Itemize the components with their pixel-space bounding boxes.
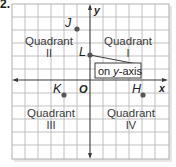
point-h-dot bbox=[140, 92, 145, 97]
quadrant-1-word: Quadrant bbox=[104, 35, 153, 47]
quadrant-2-word: Quadrant bbox=[25, 35, 74, 47]
point-k-dot bbox=[61, 92, 66, 97]
origin-label: O bbox=[79, 83, 88, 95]
quadrant-4-numeral: IV bbox=[126, 119, 137, 131]
callout-prefix: on bbox=[98, 65, 113, 77]
quadrant-2-numeral: II bbox=[46, 47, 52, 59]
point-j-dot bbox=[74, 26, 79, 31]
x-axis-label: x bbox=[158, 82, 166, 94]
quadrant-1-numeral: I bbox=[126, 47, 129, 59]
point-l-dot bbox=[87, 52, 92, 57]
callout-suffix: -axis bbox=[119, 65, 143, 77]
quadrant-3-word: Quadrant bbox=[27, 107, 76, 119]
point-l-label: L bbox=[79, 45, 86, 59]
point-h-label: H bbox=[132, 82, 142, 96]
quadrant-3-numeral: III bbox=[46, 119, 55, 131]
y-axis-label: y bbox=[93, 4, 101, 16]
coordinate-plane: y x O Quadrant I Quadrant II Quadrant II… bbox=[0, 0, 176, 167]
point-k-label: K bbox=[53, 82, 62, 96]
quadrant-4-word: Quadrant bbox=[107, 107, 156, 119]
callout-text: on y-axis bbox=[98, 65, 143, 77]
point-j-label: J bbox=[64, 16, 72, 30]
